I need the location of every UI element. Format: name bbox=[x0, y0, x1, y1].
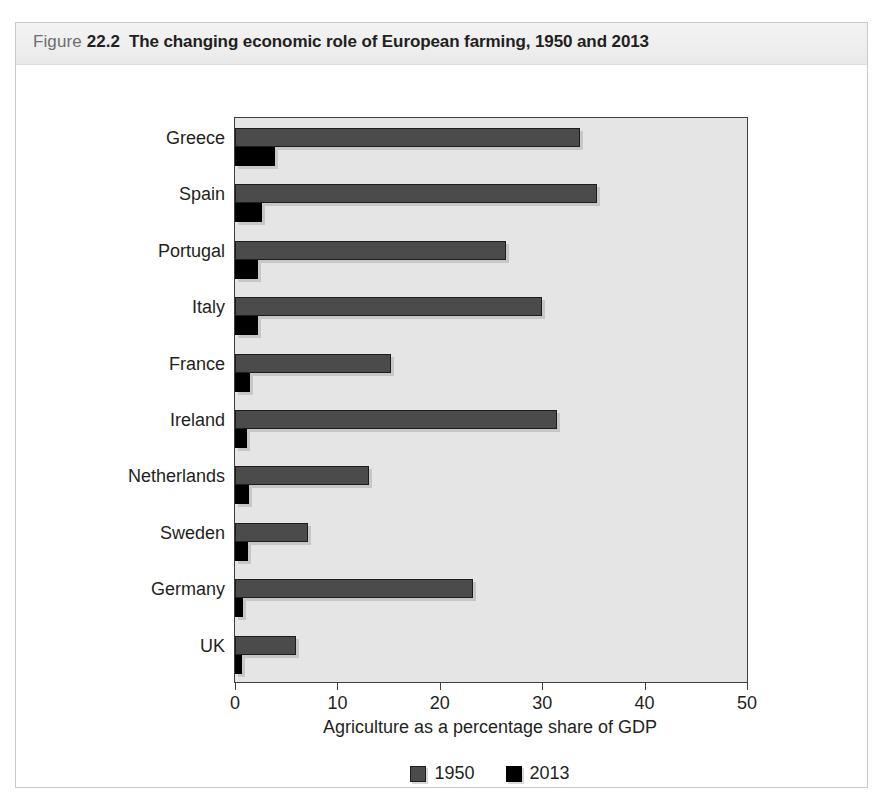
x-tick-label: 50 bbox=[737, 693, 757, 714]
bar-group: Ireland bbox=[235, 400, 747, 456]
bar-2013 bbox=[235, 485, 249, 504]
x-tick-label: 30 bbox=[532, 693, 552, 714]
x-axis-title: Agriculture as a percentage share of GDP bbox=[234, 717, 746, 738]
bar-2013 bbox=[235, 373, 250, 392]
bar-group: Netherlands bbox=[235, 456, 747, 512]
legend-swatch-1950 bbox=[410, 766, 426, 782]
x-tick-label: 10 bbox=[327, 693, 347, 714]
bar-2013 bbox=[235, 598, 243, 617]
category-label: UK bbox=[200, 636, 225, 657]
bar-1950 bbox=[235, 354, 391, 373]
x-tick-label: 0 bbox=[230, 693, 240, 714]
bar-group: Spain bbox=[235, 174, 747, 230]
bar-1950 bbox=[235, 297, 542, 316]
category-label: Germany bbox=[151, 579, 225, 600]
chart: GreeceSpainPortugalItalyFranceIrelandNet… bbox=[16, 65, 867, 787]
bar-1950 bbox=[235, 241, 506, 260]
plot-area: GreeceSpainPortugalItalyFranceIrelandNet… bbox=[234, 117, 748, 683]
legend-item-2013: 2013 bbox=[506, 763, 570, 784]
bar-group: Sweden bbox=[235, 513, 747, 569]
chart-legend: 1950 2013 bbox=[234, 763, 746, 784]
category-label: Netherlands bbox=[128, 466, 225, 487]
bar-2013 bbox=[235, 655, 242, 674]
bar-2013 bbox=[235, 147, 275, 166]
bar-1950 bbox=[235, 184, 597, 203]
bar-group: Germany bbox=[235, 569, 747, 625]
x-tick-mark bbox=[440, 682, 441, 690]
bar-2013 bbox=[235, 429, 247, 448]
bar-1950 bbox=[235, 579, 473, 598]
category-label: France bbox=[169, 354, 225, 375]
category-label: Portugal bbox=[158, 241, 225, 262]
bar-1950 bbox=[235, 128, 580, 147]
figure-label-word: Figure bbox=[33, 32, 82, 51]
x-tick-mark bbox=[747, 682, 748, 690]
bar-group: Greece bbox=[235, 118, 747, 174]
bar-2013 bbox=[235, 542, 248, 561]
legend-label-1950: 1950 bbox=[434, 763, 474, 784]
category-label: Italy bbox=[192, 297, 225, 318]
category-label: Spain bbox=[179, 184, 225, 205]
category-label: Sweden bbox=[160, 523, 225, 544]
legend-swatch-2013 bbox=[506, 766, 522, 782]
figure-number: 22.2 bbox=[87, 32, 120, 51]
figure-title: The changing economic role of European f… bbox=[129, 32, 649, 51]
x-tick-label: 20 bbox=[430, 693, 450, 714]
x-tick-mark bbox=[235, 682, 236, 690]
bar-group: Italy bbox=[235, 287, 747, 343]
x-tick-mark bbox=[542, 682, 543, 690]
bar-group: UK bbox=[235, 626, 747, 682]
bar-1950 bbox=[235, 636, 296, 655]
bar-1950 bbox=[235, 523, 308, 542]
bar-group: France bbox=[235, 344, 747, 400]
figure-container: Figure22.2The changing economic role of … bbox=[15, 22, 868, 788]
x-tick-label: 40 bbox=[635, 693, 655, 714]
legend-label-2013: 2013 bbox=[530, 763, 570, 784]
x-tick-mark bbox=[645, 682, 646, 690]
bar-2013 bbox=[235, 260, 258, 279]
bar-1950 bbox=[235, 466, 369, 485]
category-label: Greece bbox=[166, 128, 225, 149]
bar-group: Portugal bbox=[235, 231, 747, 287]
bar-1950 bbox=[235, 410, 557, 429]
bar-2013 bbox=[235, 316, 258, 335]
category-label: Ireland bbox=[170, 410, 225, 431]
bar-2013 bbox=[235, 203, 262, 222]
legend-item-1950: 1950 bbox=[410, 763, 474, 784]
x-tick-mark bbox=[337, 682, 338, 690]
figure-caption: Figure22.2The changing economic role of … bbox=[33, 32, 649, 52]
